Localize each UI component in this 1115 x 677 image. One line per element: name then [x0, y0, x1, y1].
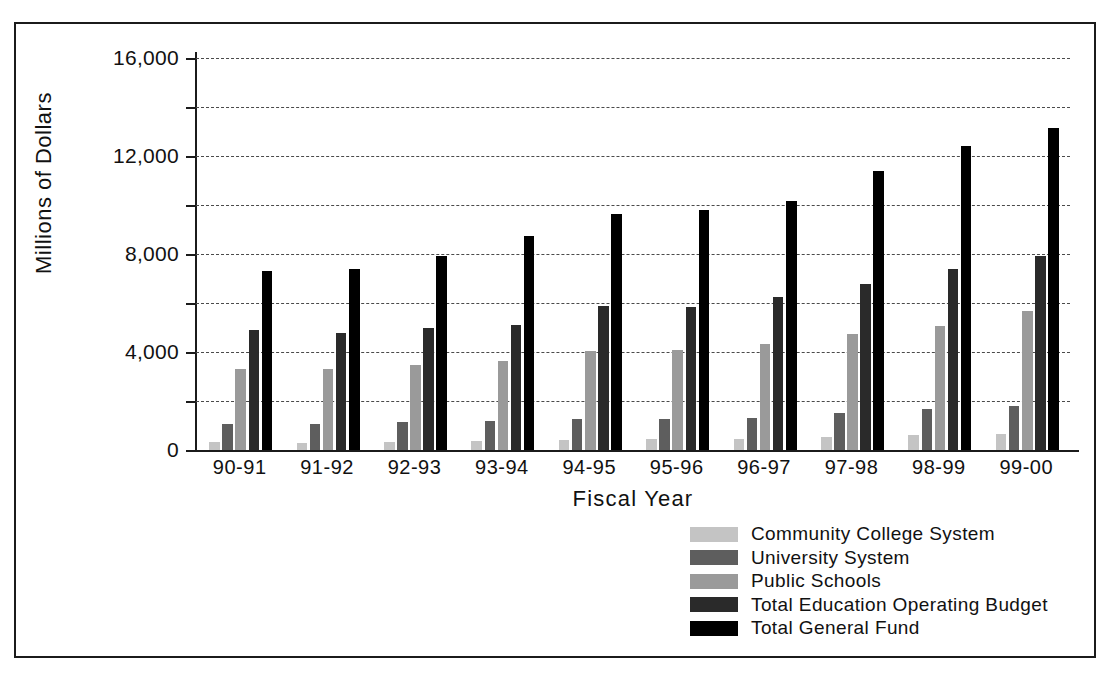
bar: [948, 269, 959, 450]
legend-label: Community College System: [751, 523, 995, 545]
legend-swatch: [690, 621, 738, 636]
x-axis-tick-label: 97-98: [808, 456, 895, 479]
legend-item: Total General Fund: [690, 617, 1048, 639]
legend-swatch: [690, 527, 738, 542]
legend-label: Total General Fund: [751, 617, 920, 639]
legend-swatch: [690, 574, 738, 589]
bar: [908, 435, 919, 450]
bar: [410, 365, 421, 450]
bar-group: [546, 58, 633, 450]
bar: [222, 424, 233, 450]
bar: [860, 284, 871, 450]
bar: [310, 424, 321, 450]
bar: [572, 419, 583, 450]
bar: [384, 442, 395, 450]
chart-figure: Millions of Dollars 04,0008,00012,00016,…: [0, 0, 1115, 677]
bar-group: [808, 58, 895, 450]
bar: [773, 297, 784, 450]
bar: [559, 440, 570, 450]
bar: [659, 419, 670, 450]
bar-group: [633, 58, 720, 450]
bar: [262, 271, 273, 450]
legend-label: Public Schools: [751, 570, 881, 592]
bar-group: [720, 58, 807, 450]
bar: [1009, 406, 1020, 450]
legend-swatch: [690, 597, 738, 612]
bar: [935, 326, 946, 450]
legend-item: University System: [690, 547, 1048, 569]
bar: [873, 171, 884, 450]
y-axis-title: Millions of Dollars: [31, 53, 57, 313]
y-axis-tick-label-wrap: 12,000: [55, 145, 179, 166]
bar-group: [196, 58, 283, 450]
bar: [996, 434, 1007, 450]
x-axis-title: Fiscal Year: [196, 486, 1070, 512]
bar-group: [983, 58, 1070, 450]
y-axis-tick-label-wrap: 0: [55, 439, 179, 460]
legend-item: Community College System: [690, 523, 1048, 545]
bar: [1035, 256, 1046, 450]
bar: [423, 328, 434, 450]
y-axis-tick-label: 12,000: [59, 145, 179, 166]
bar: [834, 413, 845, 450]
bar: [511, 325, 522, 450]
bar-group: [283, 58, 370, 450]
y-axis-tick-label-wrap: 16,000: [55, 47, 179, 68]
bar-group: [371, 58, 458, 450]
y-axis-tick-label: 16,000: [59, 47, 179, 68]
x-axis-tick-label: 92-93: [371, 456, 458, 479]
x-axis-tick-label: 94-95: [546, 456, 633, 479]
bar: [397, 422, 408, 450]
bar: [734, 439, 745, 450]
bar: [747, 418, 758, 450]
bar: [585, 351, 596, 450]
bar: [821, 437, 832, 450]
bar: [436, 256, 447, 450]
legend-swatch: [690, 550, 738, 565]
bar: [498, 361, 509, 450]
bar-group: [458, 58, 545, 450]
bar: [471, 441, 482, 450]
plot-area: [196, 58, 1070, 450]
bar: [961, 146, 972, 450]
bar: [1022, 311, 1033, 450]
bar: [524, 236, 535, 450]
y-axis-tick-label: 0: [59, 439, 179, 460]
bar: [323, 369, 334, 450]
bar: [922, 409, 933, 450]
y-axis-tick: [186, 450, 197, 452]
x-axis-tick-label: 93-94: [458, 456, 545, 479]
bar: [485, 421, 496, 450]
y-axis-tick-label: 8,000: [59, 243, 179, 264]
y-axis-tick-label-wrap: 4,000: [55, 341, 179, 362]
x-axis-tick-label: 95-96: [633, 456, 720, 479]
x-axis-line: [186, 450, 1079, 452]
x-axis-tick-label: 99-00: [983, 456, 1070, 479]
x-axis-tick-label: 90-91: [196, 456, 283, 479]
legend-item: Total Education Operating Budget: [690, 594, 1048, 616]
bar: [349, 269, 360, 450]
bar: [646, 439, 657, 450]
legend-label: Total Education Operating Budget: [751, 594, 1048, 616]
y-axis-tick-label: 4,000: [59, 341, 179, 362]
bar: [699, 210, 710, 450]
bar: [786, 201, 797, 450]
x-axis-tick-label: 91-92: [283, 456, 370, 479]
bar: [235, 369, 246, 450]
bar: [297, 443, 308, 450]
bar: [611, 214, 622, 450]
bar: [336, 333, 347, 450]
bar: [598, 306, 609, 450]
bar: [847, 334, 858, 450]
legend-item: Public Schools: [690, 570, 1048, 592]
bar: [1048, 128, 1059, 450]
bar-group: [895, 58, 982, 450]
bar: [686, 307, 697, 450]
chart-legend: Community College SystemUniversity Syste…: [690, 523, 1048, 641]
bar: [760, 344, 771, 450]
bar: [672, 350, 683, 450]
x-axis-tick-label: 96-97: [720, 456, 807, 479]
legend-label: University System: [751, 547, 910, 569]
x-axis-tick-label: 98-99: [895, 456, 982, 479]
bar: [249, 330, 260, 450]
